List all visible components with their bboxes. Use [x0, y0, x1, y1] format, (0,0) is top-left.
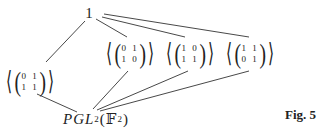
trivial-subgroup-node: 1	[83, 4, 95, 22]
subgroup-node-g1: ⟨ ( 0 1 1 1 ) ⟩	[2, 66, 58, 98]
angle-close: ⟩	[208, 41, 214, 67]
angle-open: ⟨	[106, 41, 112, 67]
matrix: 1 1 0 1	[241, 43, 258, 65]
matrix: 1 0 1 1	[181, 43, 198, 65]
figure-caption: Fig. 5	[285, 107, 316, 123]
angle-open: ⟨	[226, 41, 232, 67]
trivial-label: 1	[85, 5, 93, 22]
angle-close: ⟩	[48, 69, 54, 95]
paren-close: )	[39, 68, 46, 96]
subgroup-node-g3: ⟨ ( 1 0 1 1 ) ⟩	[162, 38, 218, 70]
subgroup-node-g2: ⟨ ( 0 1 1 0 ) ⟩	[102, 38, 158, 70]
paren-close: )	[139, 40, 146, 68]
angle-open: ⟨	[166, 41, 172, 67]
paren-open: (	[114, 40, 121, 68]
edge-g2-pgl	[93, 71, 128, 109]
paren-open: (	[174, 40, 181, 68]
paren-open: (	[234, 40, 241, 68]
paren-close: )	[199, 40, 206, 68]
angle-close: ⟩	[268, 41, 274, 67]
angle-open: ⟨	[6, 69, 12, 95]
paren-close: )	[259, 40, 266, 68]
matrix: 0 1 1 0	[121, 43, 138, 65]
subgroup-node-g4: ⟨ ( 1 1 0 1 ) ⟩	[222, 38, 278, 70]
full-group-node: PGL2(𝔽2)	[56, 109, 136, 129]
angle-close: ⟩	[148, 41, 154, 67]
matrix: 0 1 1 1	[21, 71, 38, 93]
paren-open: (	[14, 68, 21, 96]
edge-1-g1	[46, 21, 85, 62]
finite-field-symbol: 𝔽	[106, 110, 118, 128]
edge-1-g4	[104, 14, 249, 37]
